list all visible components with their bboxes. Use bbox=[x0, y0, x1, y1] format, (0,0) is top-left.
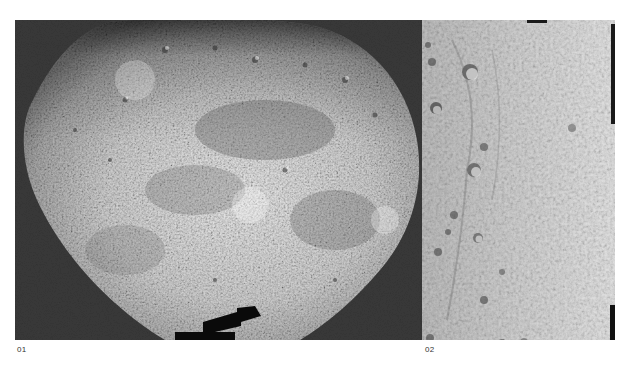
right-edge-band-bottom bbox=[610, 305, 615, 340]
header-fragment: · · · · · bbox=[230, 0, 390, 2]
top-edge-mark bbox=[527, 20, 547, 23]
figure-01-caption: 01 bbox=[17, 345, 27, 354]
figure-02-caption: 02 bbox=[425, 345, 435, 354]
figure-01-globe-image bbox=[15, 20, 422, 340]
right-edge-band-top bbox=[611, 24, 615, 124]
surface-illustration bbox=[422, 20, 615, 340]
figure-02-surface-image bbox=[422, 20, 615, 340]
globe-illustration bbox=[15, 20, 422, 340]
surface-texture bbox=[422, 20, 615, 340]
